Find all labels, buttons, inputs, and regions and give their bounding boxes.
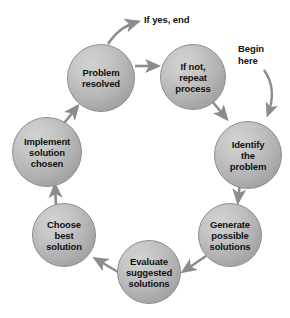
node-if-not-repeat-process[interactable]: If not, repeat process	[160, 44, 226, 110]
node-label: Identify the problem	[228, 139, 268, 172]
node-evaluate-suggested-solutions[interactable]: Evaluate suggested solutions	[117, 240, 181, 304]
node-implement-solution-chosen[interactable]: Implement solution chosen	[12, 117, 82, 187]
problem-solving-cycle-diagram: Problem resolved If not, repeat process …	[0, 0, 290, 318]
node-identify-the-problem[interactable]: Identify the problem	[214, 121, 282, 189]
arrow-begin-here-to-identify	[264, 70, 272, 114]
node-choose-best-solution[interactable]: Choose best solution	[32, 203, 96, 267]
node-label: Evaluate suggested solutions	[124, 256, 174, 289]
arrow-generate-to-evaluate	[184, 256, 206, 271]
arrow-evaluate-to-choose	[96, 259, 118, 272]
node-problem-resolved[interactable]: Problem resolved	[67, 44, 135, 112]
caption-begin-here: Begin here	[238, 43, 264, 66]
node-label: Implement solution chosen	[22, 136, 72, 169]
caption-if-yes-end: If yes, end	[144, 14, 189, 26]
node-generate-possible-solutions[interactable]: Generate possible solutions	[198, 203, 262, 267]
node-label: Generate possible solutions	[208, 219, 253, 252]
arrow-problem-resolved-to-if-yes-end	[108, 22, 137, 44]
node-label: If not, repeat process	[173, 61, 212, 94]
node-label: Choose best solution	[44, 219, 84, 252]
node-label: Problem resolved	[80, 67, 122, 89]
